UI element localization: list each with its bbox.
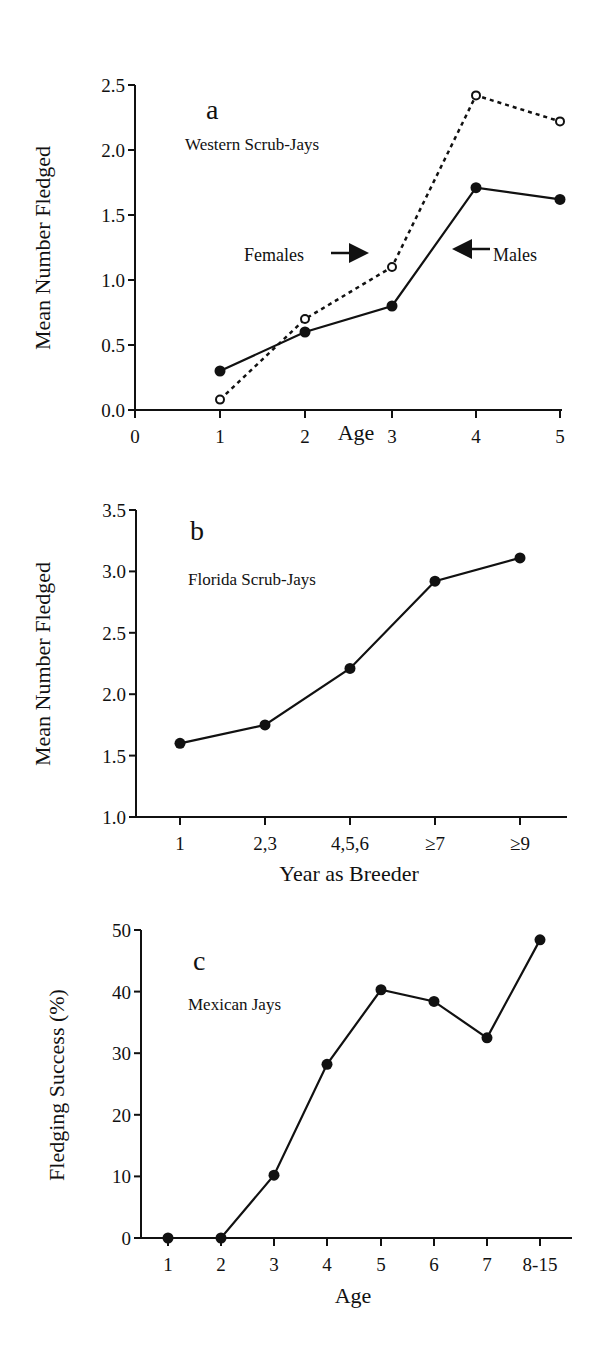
- mexican-marker: [482, 1032, 493, 1043]
- panel-c-species-label: Mexican Jays: [188, 995, 281, 1014]
- florida-marker: [430, 576, 441, 587]
- panel-a-x-axis-title: Age: [338, 420, 375, 445]
- mexican-marker: [429, 996, 440, 1007]
- mexican-line: [168, 940, 540, 1238]
- x-tick-label: 5: [555, 426, 565, 447]
- females-annotation: Females: [244, 245, 304, 265]
- y-tick-label: 0.5: [101, 335, 125, 356]
- females-marker: [301, 315, 309, 323]
- y-tick-label: 3.0: [102, 561, 126, 582]
- x-tick-label: ≥9: [510, 833, 530, 854]
- y-tick-label: 1.5: [101, 205, 125, 226]
- y-tick-label: 10: [112, 1166, 131, 1187]
- x-tick-label: 0: [130, 426, 140, 447]
- mexican-marker: [269, 1170, 280, 1181]
- males-marker: [555, 194, 566, 205]
- x-tick-label: 2: [300, 426, 310, 447]
- panel-c-x-axis-title: Age: [335, 1283, 372, 1308]
- florida-marker: [345, 663, 356, 674]
- x-tick-label: 4,5,6: [331, 833, 369, 854]
- panel-b-species-label: Florida Scrub-Jays: [188, 570, 316, 589]
- y-tick-label: 1.0: [101, 270, 125, 291]
- y-tick-label: 1.0: [102, 807, 126, 828]
- y-tick-label: 50: [112, 920, 131, 941]
- panel-c-axes: 0102030405012345678-15: [112, 920, 572, 1275]
- x-tick-label: 3: [387, 426, 397, 447]
- panel-a-letter: a: [206, 94, 219, 125]
- mexican-marker: [535, 934, 546, 945]
- y-tick-label: 2.5: [101, 75, 125, 96]
- x-tick-label: 4: [471, 426, 481, 447]
- males-annotation: Males: [493, 245, 537, 265]
- panel-b-axes: 1.01.52.02.53.03.512,34,5,6≥7≥9: [102, 500, 567, 854]
- florida-marker: [260, 719, 271, 730]
- females-marker: [472, 91, 480, 99]
- y-tick-label: 3.5: [102, 500, 126, 521]
- panel-c-y-axis-title: Fledging Success (%): [44, 989, 69, 1181]
- panel-b-x-axis-title: Year as Breeder: [279, 861, 419, 886]
- y-tick-label: 0: [122, 1228, 132, 1249]
- x-tick-label: 4: [322, 1254, 332, 1275]
- y-tick-label: 1.5: [102, 746, 126, 767]
- males-marker: [300, 327, 311, 338]
- x-tick-label: 2: [216, 1254, 226, 1275]
- florida-marker: [175, 738, 186, 749]
- males-marker: [387, 301, 398, 312]
- x-tick-label: 5: [376, 1254, 386, 1275]
- panel-b-florida-scrub-jays: 1.01.52.02.53.03.512,34,5,6≥7≥9 Mean Num…: [30, 500, 567, 886]
- panel-a-y-axis-title: Mean Number Fledged: [30, 146, 55, 350]
- x-tick-label: 1: [215, 426, 225, 447]
- panel-c-mexican-jays: 0102030405012345678-15 Fledging Success …: [44, 920, 572, 1308]
- mexican-marker: [163, 1233, 174, 1244]
- y-tick-label: 30: [112, 1043, 131, 1064]
- x-tick-label: 7: [482, 1254, 492, 1275]
- panel-a-western-scrub-jays: 0.00.51.01.52.02.5012345 Mean Number Fle…: [30, 75, 566, 447]
- x-tick-label: 3: [269, 1254, 279, 1275]
- mexican-marker: [322, 1059, 333, 1070]
- panel-a-species-label: Western Scrub-Jays: [185, 135, 319, 154]
- figure: 0.00.51.01.52.02.5012345 Mean Number Fle…: [0, 0, 592, 1361]
- males-marker: [215, 366, 226, 377]
- panel-b-y-axis-title: Mean Number Fledged: [30, 562, 55, 766]
- y-tick-label: 20: [112, 1105, 131, 1126]
- x-tick-label: 1: [163, 1254, 173, 1275]
- panel-c-letter: c: [193, 945, 205, 976]
- females-marker: [556, 117, 564, 125]
- y-tick-label: 40: [112, 982, 131, 1003]
- males-marker: [471, 182, 482, 193]
- x-tick-label: 8-15: [523, 1254, 558, 1275]
- y-tick-label: 0.0: [101, 400, 125, 421]
- x-tick-label: 1: [175, 833, 185, 854]
- florida-marker: [515, 552, 526, 563]
- x-tick-label: 6: [429, 1254, 439, 1275]
- males-line: [220, 188, 560, 371]
- y-tick-label: 2.0: [101, 140, 125, 161]
- x-tick-label: ≥7: [425, 833, 445, 854]
- x-tick-label: 2,3: [253, 833, 277, 854]
- mexican-marker: [216, 1233, 227, 1244]
- mexican-marker: [376, 984, 387, 995]
- panel-b-letter: b: [190, 515, 204, 546]
- females-marker: [216, 396, 224, 404]
- y-tick-label: 2.5: [102, 623, 126, 644]
- panel-c-series: [163, 934, 546, 1243]
- females-marker: [388, 263, 396, 271]
- y-tick-label: 2.0: [102, 684, 126, 705]
